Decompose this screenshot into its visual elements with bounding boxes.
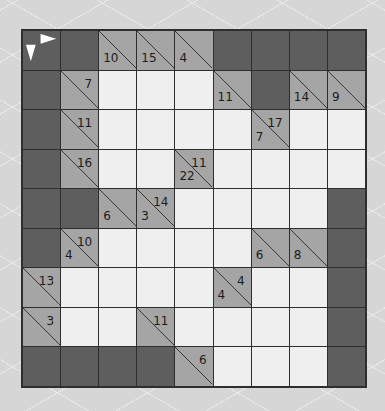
entry-cell[interactable] [252, 268, 289, 307]
entry-cell[interactable] [290, 308, 327, 347]
clue-cell: 10 [99, 31, 136, 70]
clue-cell: 6 [99, 189, 136, 228]
entry-cell[interactable] [137, 229, 174, 268]
clue-cell: 11 [61, 110, 98, 149]
entry-cell[interactable] [175, 229, 212, 268]
down-clue-value: 11 [218, 91, 233, 103]
entry-cell[interactable] [252, 150, 289, 189]
across-clue-value: 13 [39, 275, 54, 287]
direction-legend-cell [23, 31, 60, 70]
entry-cell[interactable] [214, 308, 251, 347]
blocked-cell [99, 347, 136, 386]
down-clue-value: 4 [65, 249, 73, 261]
diagonal-divider [175, 347, 212, 384]
entry-cell[interactable] [175, 110, 212, 149]
entry-cell[interactable] [175, 71, 212, 110]
blocked-cell [252, 71, 289, 110]
across-clue-value: 11 [77, 117, 92, 129]
entry-cell[interactable] [252, 308, 289, 347]
blocked-cell [328, 229, 365, 268]
clue-cell: 6 [175, 347, 212, 386]
across-clue-value: 14 [153, 196, 168, 208]
entry-cell[interactable] [328, 150, 365, 189]
entry-cell[interactable] [137, 110, 174, 149]
entry-cell[interactable] [214, 150, 251, 189]
clue-cell: 11 [137, 308, 174, 347]
blocked-cell [328, 347, 365, 386]
blocked-cell [328, 31, 365, 70]
entry-cell[interactable] [214, 229, 251, 268]
blocked-cell [61, 31, 98, 70]
down-clue-value: 4 [179, 52, 187, 64]
entry-cell[interactable] [137, 268, 174, 307]
entry-cell[interactable] [99, 110, 136, 149]
clue-cell: 13 [23, 268, 60, 307]
down-clue-value: 8 [294, 249, 302, 261]
across-clue-value: 11 [153, 315, 168, 327]
blocked-cell [252, 31, 289, 70]
blocked-cell [23, 229, 60, 268]
entry-cell[interactable] [290, 347, 327, 386]
across-clue-value: 16 [77, 157, 92, 169]
across-clue-value: 3 [46, 315, 54, 327]
clue-cell: 7 [61, 71, 98, 110]
across-clue-value: 6 [199, 354, 207, 366]
entry-cell[interactable] [252, 189, 289, 228]
entry-cell[interactable] [99, 229, 136, 268]
clue-cell: 104 [61, 229, 98, 268]
down-clue-value: 6 [103, 210, 111, 222]
down-clue-value: 7 [256, 131, 264, 143]
entry-cell[interactable] [99, 150, 136, 189]
entry-cell[interactable] [99, 268, 136, 307]
blocked-cell [137, 347, 174, 386]
entry-cell[interactable] [290, 189, 327, 228]
entry-cell[interactable] [214, 110, 251, 149]
entry-cell[interactable] [175, 308, 212, 347]
diagonal-divider [23, 308, 60, 345]
entry-cell[interactable] [137, 150, 174, 189]
down-clue-value: 10 [103, 52, 118, 64]
entry-cell[interactable] [175, 268, 212, 307]
kakuro-board: 101547111491117716112261431046813443116 [21, 29, 367, 388]
clue-cell: 9 [328, 71, 365, 110]
entry-cell[interactable] [290, 268, 327, 307]
clue-cell: 177 [252, 110, 289, 149]
blocked-cell [23, 347, 60, 386]
clue-cell: 15 [137, 31, 174, 70]
blocked-cell [23, 110, 60, 149]
across-clue-value: 11 [191, 157, 206, 169]
down-clue-value: 22 [179, 170, 194, 182]
blocked-cell [214, 31, 251, 70]
blocked-cell [290, 31, 327, 70]
entry-cell[interactable] [290, 150, 327, 189]
entry-cell[interactable] [175, 189, 212, 228]
blocked-cell [328, 189, 365, 228]
entry-cell[interactable] [290, 110, 327, 149]
clue-cell: 44 [214, 268, 251, 307]
entry-cell[interactable] [252, 347, 289, 386]
down-clue-value: 3 [141, 210, 149, 222]
clue-cell: 3 [23, 308, 60, 347]
clue-cell: 11 [214, 71, 251, 110]
entry-cell[interactable] [214, 347, 251, 386]
diagonal-divider [61, 71, 98, 108]
blocked-cell [23, 189, 60, 228]
right-down-arrows-icon [23, 31, 60, 70]
entry-cell[interactable] [328, 110, 365, 149]
across-clue-value: 4 [237, 275, 245, 287]
blocked-cell [328, 268, 365, 307]
blocked-cell [23, 150, 60, 189]
entry-cell[interactable] [137, 71, 174, 110]
entry-cell[interactable] [214, 189, 251, 228]
down-clue-value: 14 [294, 91, 309, 103]
clue-cell: 143 [137, 189, 174, 228]
across-clue-value: 10 [77, 236, 92, 248]
blocked-cell [61, 347, 98, 386]
across-clue-value: 17 [267, 117, 282, 129]
down-clue-value: 15 [141, 52, 156, 64]
entry-cell[interactable] [61, 308, 98, 347]
entry-cell[interactable] [99, 308, 136, 347]
entry-cell[interactable] [61, 268, 98, 307]
clue-cell: 6 [252, 229, 289, 268]
entry-cell[interactable] [99, 71, 136, 110]
